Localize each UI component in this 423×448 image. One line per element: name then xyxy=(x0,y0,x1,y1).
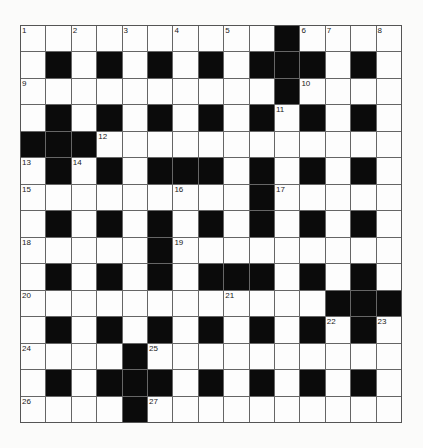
answer-cell[interactable] xyxy=(72,370,96,395)
answer-cell[interactable] xyxy=(173,264,197,289)
answer-cell[interactable]: 7 xyxy=(326,26,350,51)
answer-cell[interactable] xyxy=(173,344,197,369)
answer-cell[interactable] xyxy=(224,238,248,263)
answer-cell[interactable] xyxy=(275,344,299,369)
answer-cell[interactable] xyxy=(123,317,147,342)
answer-cell[interactable]: 2 xyxy=(72,26,96,51)
answer-cell[interactable] xyxy=(377,158,401,183)
answer-cell[interactable]: 14 xyxy=(72,158,96,183)
answer-cell[interactable] xyxy=(46,238,70,263)
answer-cell[interactable] xyxy=(326,79,350,104)
answer-cell[interactable] xyxy=(250,344,274,369)
answer-cell[interactable] xyxy=(377,370,401,395)
answer-cell[interactable] xyxy=(326,370,350,395)
answer-cell[interactable] xyxy=(351,238,375,263)
answer-cell[interactable] xyxy=(123,132,147,157)
answer-cell[interactable] xyxy=(377,264,401,289)
answer-cell[interactable] xyxy=(72,264,96,289)
answer-cell[interactable] xyxy=(148,26,172,51)
answer-cell[interactable] xyxy=(377,105,401,130)
answer-cell[interactable] xyxy=(300,291,324,316)
answer-cell[interactable] xyxy=(123,238,147,263)
answer-cell[interactable] xyxy=(72,52,96,77)
answer-cell[interactable] xyxy=(224,79,248,104)
answer-cell[interactable] xyxy=(123,264,147,289)
answer-cell[interactable]: 15 xyxy=(21,185,45,210)
answer-cell[interactable] xyxy=(351,397,375,422)
answer-cell[interactable]: 3 xyxy=(123,26,147,51)
answer-cell[interactable] xyxy=(46,79,70,104)
answer-cell[interactable]: 19 xyxy=(173,238,197,263)
answer-cell[interactable] xyxy=(377,344,401,369)
answer-cell[interactable] xyxy=(97,238,121,263)
answer-cell[interactable] xyxy=(173,317,197,342)
answer-cell[interactable]: 21 xyxy=(224,291,248,316)
answer-cell[interactable] xyxy=(377,238,401,263)
answer-cell[interactable] xyxy=(123,105,147,130)
answer-cell[interactable] xyxy=(173,79,197,104)
answer-cell[interactable] xyxy=(46,291,70,316)
answer-cell[interactable] xyxy=(21,52,45,77)
answer-cell[interactable] xyxy=(326,264,350,289)
answer-cell[interactable] xyxy=(377,185,401,210)
answer-cell[interactable]: 20 xyxy=(21,291,45,316)
answer-cell[interactable]: 1 xyxy=(21,26,45,51)
answer-cell[interactable] xyxy=(250,238,274,263)
answer-cell[interactable] xyxy=(72,211,96,236)
answer-cell[interactable] xyxy=(46,397,70,422)
answer-cell[interactable] xyxy=(46,344,70,369)
answer-cell[interactable] xyxy=(46,185,70,210)
answer-cell[interactable] xyxy=(21,105,45,130)
answer-cell[interactable] xyxy=(199,238,223,263)
answer-cell[interactable] xyxy=(326,52,350,77)
answer-cell[interactable] xyxy=(173,291,197,316)
answer-cell[interactable]: 4 xyxy=(173,26,197,51)
answer-cell[interactable] xyxy=(326,158,350,183)
answer-cell[interactable] xyxy=(326,344,350,369)
answer-cell[interactable] xyxy=(275,238,299,263)
answer-cell[interactable]: 13 xyxy=(21,158,45,183)
answer-cell[interactable] xyxy=(123,52,147,77)
answer-cell[interactable] xyxy=(173,105,197,130)
answer-cell[interactable] xyxy=(199,185,223,210)
answer-cell[interactable] xyxy=(224,317,248,342)
answer-cell[interactable] xyxy=(377,211,401,236)
answer-cell[interactable] xyxy=(300,185,324,210)
answer-cell[interactable] xyxy=(173,397,197,422)
answer-cell[interactable] xyxy=(173,211,197,236)
answer-cell[interactable] xyxy=(97,291,121,316)
answer-cell[interactable] xyxy=(377,132,401,157)
answer-cell[interactable] xyxy=(275,317,299,342)
answer-cell[interactable] xyxy=(224,52,248,77)
answer-cell[interactable] xyxy=(173,132,197,157)
answer-cell[interactable] xyxy=(275,397,299,422)
answer-cell[interactable] xyxy=(275,291,299,316)
answer-cell[interactable]: 17 xyxy=(275,185,299,210)
answer-cell[interactable] xyxy=(72,238,96,263)
answer-cell[interactable] xyxy=(326,185,350,210)
answer-cell[interactable] xyxy=(275,158,299,183)
answer-cell[interactable] xyxy=(97,79,121,104)
answer-cell[interactable] xyxy=(173,370,197,395)
answer-cell[interactable]: 22 xyxy=(326,317,350,342)
answer-cell[interactable] xyxy=(97,397,121,422)
answer-cell[interactable] xyxy=(21,317,45,342)
answer-cell[interactable] xyxy=(326,132,350,157)
answer-cell[interactable]: 11 xyxy=(275,105,299,130)
answer-cell[interactable] xyxy=(199,132,223,157)
answer-cell[interactable] xyxy=(72,344,96,369)
answer-cell[interactable] xyxy=(97,185,121,210)
answer-cell[interactable] xyxy=(21,211,45,236)
answer-cell[interactable] xyxy=(351,26,375,51)
answer-cell[interactable] xyxy=(72,317,96,342)
answer-cell[interactable] xyxy=(351,79,375,104)
answer-cell[interactable] xyxy=(148,185,172,210)
answer-cell[interactable] xyxy=(199,291,223,316)
answer-cell[interactable] xyxy=(224,158,248,183)
answer-cell[interactable] xyxy=(275,264,299,289)
answer-cell[interactable] xyxy=(123,291,147,316)
answer-cell[interactable]: 8 xyxy=(377,26,401,51)
answer-cell[interactable] xyxy=(300,397,324,422)
answer-cell[interactable]: 10 xyxy=(300,79,324,104)
answer-cell[interactable] xyxy=(224,132,248,157)
